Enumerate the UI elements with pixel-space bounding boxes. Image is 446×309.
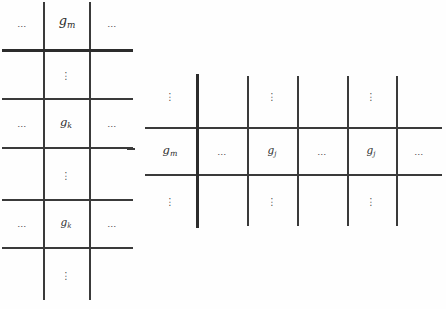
right-grid-label-g-j-2: gj [367,145,376,157]
right-grid-vline-5 [396,76,398,226]
right-grid-bottom-vdots-3: ⋮ [366,197,376,207]
right-grid-vline-4 [347,76,349,226]
right-grid-middle-ellipsis-2: … [317,148,327,157]
right-grid-label-g-j-1: gj [268,145,277,157]
right-grid-top-vdots-1: ⋮ [165,92,175,102]
figure-grid-diagram: … gm … ⋮ … gk … ⋮ … gk … ⋮ ⋮ ⋮ ⋮ gm … [0,0,446,309]
right-row-grid: ⋮ ⋮ ⋮ gm … gj … gj … ⋮ ⋮ ⋮ [0,0,446,309]
right-grid-vline-2 [247,76,249,226]
right-grid-middle-ellipsis-3: … [414,148,424,157]
right-grid-top-vdots-2: ⋮ [267,92,277,102]
right-grid-middle-ellipsis-1: … [217,148,227,157]
right-grid-top-vdots-3: ⋮ [366,92,376,102]
right-grid-vline-3 [297,76,299,226]
right-grid-bottom-vdots-2: ⋮ [267,197,277,207]
right-grid-label-g-m: gm [163,145,178,158]
right-grid-vline-thick [196,74,199,228]
right-grid-bottom-vdots-1: ⋮ [165,197,175,207]
